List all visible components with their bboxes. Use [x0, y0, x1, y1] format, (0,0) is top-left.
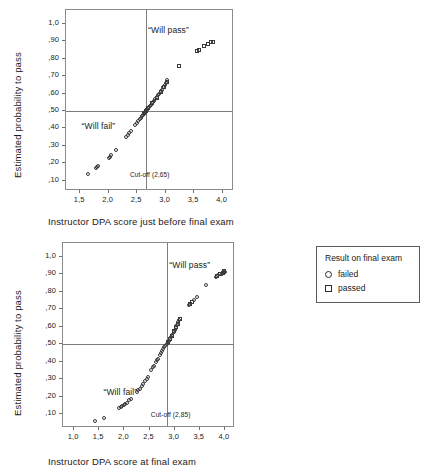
y-tick-label: ,80 — [45, 287, 56, 295]
y-tick-label: ,70 — [45, 304, 56, 312]
chart-annotation-2: Cut-off (2,85) — [151, 411, 191, 419]
y-tick-label: ,40 — [45, 357, 56, 365]
y-tick-mark — [62, 145, 65, 146]
data-point-failed — [93, 419, 97, 423]
chart-annotation-1: “Will fail” — [103, 387, 137, 397]
y-tick-mark — [59, 273, 62, 274]
x-tick-mark — [123, 427, 124, 430]
y-tick-label: ,60 — [45, 322, 56, 330]
x-tick-label: 1,0 — [68, 433, 79, 441]
y-tick-label: 1,0 — [45, 252, 56, 260]
y-tick-mark — [62, 58, 65, 59]
data-point-failed — [204, 283, 208, 287]
y-tick-mark — [59, 291, 62, 292]
x-tick-mark — [98, 427, 99, 430]
y-tick-mark — [59, 378, 62, 379]
data-point-passed — [178, 317, 182, 321]
data-point-passed — [146, 106, 150, 110]
data-point-passed — [174, 325, 178, 329]
square-marker-icon — [325, 285, 332, 292]
x-tick-mark — [108, 190, 109, 193]
chart-bottom-plot-area: “Will pass”“Will fail”Cut-off (2,85) — [62, 242, 234, 427]
data-point-failed — [156, 357, 160, 361]
horizontal-reference-line — [63, 344, 233, 345]
x-tick-label: 2,5 — [131, 196, 142, 204]
y-tick-mark — [62, 180, 65, 181]
y-tick-mark — [62, 40, 65, 41]
data-point-passed — [165, 80, 169, 84]
data-point-failed — [102, 416, 106, 420]
y-tick-label: ,30 — [48, 141, 59, 149]
chart-top-x-axis-title: Instructor DPA score just before final e… — [48, 216, 234, 228]
chart-bottom-x-axis-title: Instructor DPA score at final exam — [48, 456, 196, 468]
legend-entry-passed-label: passed — [338, 283, 365, 294]
y-tick-label: ,20 — [48, 158, 59, 166]
y-tick-label: ,50 — [45, 339, 56, 347]
data-point-passed — [150, 101, 154, 105]
y-tick-mark — [62, 75, 65, 76]
y-tick-mark — [59, 326, 62, 327]
y-tick-mark — [59, 308, 62, 309]
figure-page: Estimated probability to pass “Will pass… — [0, 0, 429, 470]
y-tick-mark — [62, 93, 65, 94]
legend: Result on final exam failed passed — [316, 246, 420, 303]
cutoff-reference-line — [146, 10, 147, 189]
x-tick-mark — [73, 427, 74, 430]
chart-annotation-2: Cut-off (2,65) — [130, 171, 170, 179]
x-tick-label: 3,0 — [168, 433, 179, 441]
data-point-failed — [152, 364, 156, 368]
x-tick-label: 2,0 — [102, 196, 113, 204]
data-point-passed — [211, 40, 215, 44]
y-tick-label: ,60 — [48, 89, 59, 97]
y-tick-label: ,50 — [48, 106, 59, 114]
data-point-passed — [159, 90, 163, 94]
data-point-failed — [109, 153, 113, 157]
x-tick-label: 2,5 — [143, 433, 154, 441]
data-point-passed — [162, 85, 166, 89]
y-tick-label: ,10 — [48, 176, 59, 184]
chart-annotation-0: “Will pass” — [148, 25, 189, 35]
y-tick-mark — [59, 256, 62, 257]
x-tick-mark — [193, 190, 194, 193]
data-point-passed — [168, 337, 172, 341]
y-tick-mark — [59, 343, 62, 344]
data-point-failed — [96, 164, 100, 168]
data-point-passed — [155, 96, 159, 100]
y-tick-label: 1,0 — [48, 19, 59, 27]
legend-title: Result on final exam — [325, 253, 411, 264]
y-tick-label: ,90 — [45, 269, 56, 277]
legend-entry-passed: passed — [325, 283, 411, 294]
y-tick-mark — [62, 23, 65, 24]
data-point-passed — [197, 48, 201, 52]
chart-top-plot-area: “Will pass”“Will fail”Cut-off (2,65) — [65, 9, 233, 190]
x-tick-mark — [222, 190, 223, 193]
x-tick-mark — [165, 190, 166, 193]
y-tick-mark — [59, 396, 62, 397]
x-tick-label: 4,0 — [219, 433, 230, 441]
x-tick-label: 2,0 — [118, 433, 129, 441]
x-tick-label: 3,0 — [159, 196, 170, 204]
y-tick-mark — [59, 361, 62, 362]
data-point-failed — [146, 375, 150, 379]
chart-bottom: Estimated probability to pass “Will pass… — [0, 236, 270, 470]
x-tick-mark — [136, 190, 137, 193]
y-tick-mark — [62, 127, 65, 128]
data-point-passed — [172, 329, 176, 333]
x-tick-mark — [199, 427, 200, 430]
chart-top: Estimated probability to pass “Will pass… — [0, 0, 270, 230]
data-point-passed — [190, 300, 194, 304]
chart-annotation-1: “Will fail” — [82, 121, 116, 131]
x-tick-label: 4,0 — [216, 196, 227, 204]
data-point-failed — [114, 148, 118, 152]
x-tick-label: 1,5 — [93, 433, 104, 441]
x-tick-label: 1,5 — [74, 196, 85, 204]
chart-annotation-0: “Will pass” — [169, 260, 210, 270]
data-point-passed — [170, 334, 174, 338]
data-point-failed — [129, 129, 133, 133]
x-tick-label: 3,5 — [188, 196, 199, 204]
chart-bottom-y-axis-title: Estimated probability to pass — [12, 290, 24, 416]
legend-entry-failed: failed — [325, 269, 411, 280]
y-tick-label: ,90 — [48, 36, 59, 44]
y-tick-mark — [59, 413, 62, 414]
legend-entry-failed-label: failed — [338, 269, 358, 280]
